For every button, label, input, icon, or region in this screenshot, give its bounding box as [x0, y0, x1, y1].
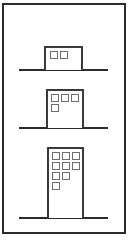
building-2-window-r1-c2 [61, 94, 68, 101]
building-1-window-r1-c2 [60, 51, 67, 58]
building-3-window-r1-c1 [52, 152, 59, 159]
building-2-window-r2-c1 [51, 104, 58, 111]
building-growth-diagram [0, 0, 136, 246]
building-3-window-r1-c3 [72, 152, 79, 159]
building-1-window-r1-c1 [50, 51, 57, 58]
building-2-window-r1-c1 [51, 94, 58, 101]
building-3-window-r3-c2 [62, 172, 69, 179]
figure-root [0, 0, 136, 246]
building-3-window-r2-c2 [62, 162, 69, 169]
building-3-window-r2-c1 [52, 162, 59, 169]
building-3-window-r2-c3 [72, 162, 79, 169]
building-3-window-r1-c2 [62, 152, 69, 159]
building-2-window-r1-c3 [71, 94, 78, 101]
building-2 [47, 90, 83, 128]
building-3 [48, 148, 83, 218]
building-3-window-r4-c1 [52, 182, 59, 189]
building-3-window-r3-c1 [52, 172, 59, 179]
building-1 [45, 47, 82, 70]
